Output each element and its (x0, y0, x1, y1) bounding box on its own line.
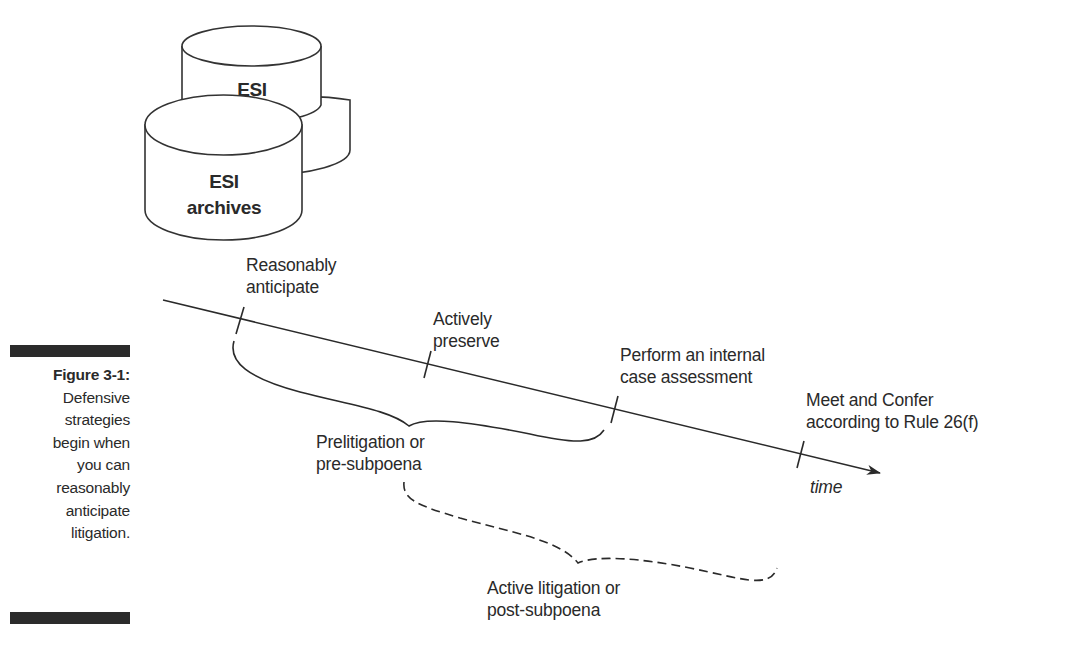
active-litigation-brace (404, 482, 777, 580)
milestone-line: Meet and Confer (806, 389, 978, 411)
defensive-strategy-diagram: ESI ESI archives (0, 0, 1065, 663)
time-axis-label: time (810, 476, 842, 498)
phase-line: Active litigation or (487, 577, 620, 599)
phase-line: post-subpoena (487, 599, 620, 621)
milestone-line: according to Rule 26(f) (806, 411, 978, 433)
timeline-tick (236, 307, 244, 334)
milestone-line: Reasonably (246, 254, 336, 276)
milestone-line: Perform an internal (620, 344, 765, 366)
prelitigation-brace (233, 341, 604, 441)
milestone-label-reasonably-anticipate: Reasonably anticipate (246, 254, 336, 298)
esi-archives-label-line2: archives (187, 197, 262, 218)
phase-label-prelitigation: Prelitigation or pre-subpoena (316, 431, 425, 475)
timeline-arrow (163, 300, 880, 473)
milestone-line: case assessment (620, 366, 765, 388)
database-cylinder-icon: ESI archives (145, 95, 302, 240)
milestone-line: anticipate (246, 276, 336, 298)
milestone-label-actively-preserve: Actively preserve (433, 308, 500, 352)
milestone-label-meet-and-confer: Meet and Confer according to Rule 26(f) (806, 389, 978, 433)
milestone-line: Actively (433, 308, 500, 330)
phase-line: Prelitigation or (316, 431, 425, 453)
milestone-label-internal-case-assessment: Perform an internal case assessment (620, 344, 765, 388)
phase-line: pre-subpoena (316, 453, 425, 475)
phase-label-active-litigation: Active litigation or post-subpoena (487, 577, 620, 621)
milestone-line: preserve (433, 330, 500, 352)
esi-archives-label-line1: ESI (209, 171, 239, 192)
